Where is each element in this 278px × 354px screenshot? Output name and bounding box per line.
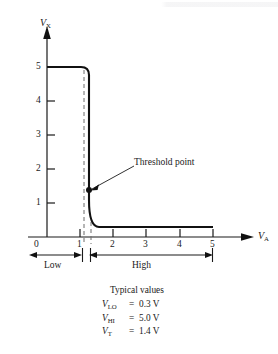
typical-values-symbol-vhi: VHI <box>102 312 129 326</box>
vhi-subscript: HI <box>108 317 115 324</box>
vt-symbol: V <box>102 326 108 336</box>
figure-root: VX VA 5 4 3 2 1 0 1 2 3 4 5 Threshold po… <box>0 0 278 354</box>
low-bracket-left-arrow <box>29 252 37 258</box>
typical-values-row-vt: VT = 1.4 V <box>96 325 226 339</box>
typical-values-value-vlo: 0.3 V <box>139 298 160 311</box>
y-tick-label-1: 1 <box>36 198 41 208</box>
x-axis-arrowhead <box>241 233 254 241</box>
vt-subscript: T <box>108 330 112 337</box>
typical-values-equals-vhi: = <box>129 312 139 325</box>
y-axis-title-subscript: X <box>46 22 51 29</box>
x-axis-title: VA <box>258 231 269 241</box>
y-tick-label-4: 4 <box>36 96 41 106</box>
region-label-high: High <box>132 261 151 271</box>
y-axis-title: VX <box>40 18 51 28</box>
typical-values-block: Typical values VLO = 0.3 V VHI = 5.0 V V… <box>96 284 226 339</box>
y-tick-label-5: 5 <box>36 62 41 72</box>
typical-values-value-vt: 1.4 V <box>139 325 160 338</box>
x-tick-label-4: 4 <box>177 240 182 250</box>
vhi-symbol: V <box>102 313 108 323</box>
x-axis-title-subscript: A <box>264 235 269 242</box>
x-tick-label-3: 3 <box>143 240 148 250</box>
typical-values-heading: Typical values <box>96 284 226 297</box>
typical-values-symbol-vlo: VLO <box>102 298 129 312</box>
high-bracket-right-arrow <box>205 252 213 258</box>
origin-tick-label-0: 0 <box>34 240 39 250</box>
y-tick-label-3: 3 <box>36 130 41 140</box>
typical-values-row-vlo: VLO = 0.3 V <box>96 298 226 312</box>
typical-values-value-vhi: 5.0 V <box>139 312 160 325</box>
threshold-point-label: Threshold point <box>134 158 194 168</box>
low-bracket-right-arrow <box>74 252 82 258</box>
typical-values-equals-vlo: = <box>129 298 139 311</box>
vlo-subscript: LO <box>108 303 117 310</box>
typical-values-symbol-vt: VT <box>102 325 129 339</box>
region-label-low: Low <box>44 261 61 271</box>
x-tick-label-2: 2 <box>110 240 115 250</box>
typical-values-equals-vt: = <box>129 325 139 338</box>
x-tick-label-1: 1 <box>77 240 82 250</box>
transfer-curve <box>47 67 213 227</box>
typical-values-row-vhi: VHI = 5.0 V <box>96 312 226 326</box>
x-tick-label-5: 5 <box>210 240 215 250</box>
vlo-symbol: V <box>102 299 108 309</box>
y-tick-label-2: 2 <box>36 164 41 174</box>
